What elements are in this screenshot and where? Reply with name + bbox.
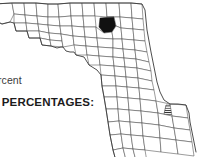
south-central-florida-counties bbox=[100, 65, 156, 101]
legend-heading: N PERCENTAGES: bbox=[0, 96, 94, 108]
florida-county-map bbox=[0, 0, 197, 157]
caption-text: ercent bbox=[0, 74, 22, 86]
southeast-florida-counties bbox=[104, 97, 194, 157]
figure-canvas: ercent N PERCENTAGES: bbox=[0, 0, 197, 157]
panhandle-counties bbox=[0, 3, 63, 47]
map-svg bbox=[0, 0, 197, 157]
north-florida-counties bbox=[58, 3, 145, 41]
